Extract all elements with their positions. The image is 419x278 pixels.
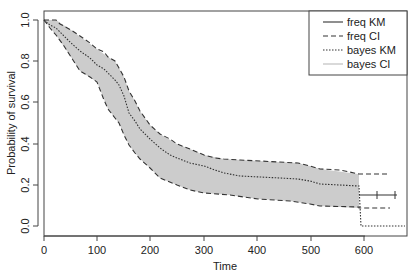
survival-chart: 0 100 200 300 400 500 600 Time 0.0 0.2 0…	[0, 0, 419, 278]
y-axis-title: Probability of survival	[5, 71, 17, 175]
y-tick-label: 0.4	[19, 136, 31, 151]
x-tick-label: 600	[355, 244, 373, 256]
legend-label: freq KM	[347, 16, 386, 28]
x-axis: 0 100 200 300 400 500 600 Time	[41, 236, 373, 272]
x-tick-label: 300	[195, 244, 213, 256]
x-tick-label: 200	[141, 244, 159, 256]
legend-label: bayes CI	[347, 58, 390, 70]
y-tick-label: 1.0	[19, 12, 31, 27]
y-tick-label: 0.0	[19, 218, 31, 233]
legend: freq KM freq CI bayes KM bayes CI	[309, 11, 407, 75]
y-tick-label: 0.8	[19, 53, 31, 68]
legend-label: freq CI	[347, 30, 380, 42]
x-tick-label: 100	[88, 244, 106, 256]
x-tick-label: 400	[248, 244, 266, 256]
legend-label: bayes KM	[347, 44, 396, 56]
x-tick-label: 0	[41, 244, 47, 256]
y-tick-label: 0.2	[19, 177, 31, 192]
x-tick-label: 500	[302, 244, 320, 256]
x-axis-title: Time	[213, 260, 237, 272]
y-axis: 0.0 0.2 0.4 0.6 0.8 1.0 Probability of s…	[5, 12, 38, 233]
y-tick-label: 0.6	[19, 94, 31, 109]
